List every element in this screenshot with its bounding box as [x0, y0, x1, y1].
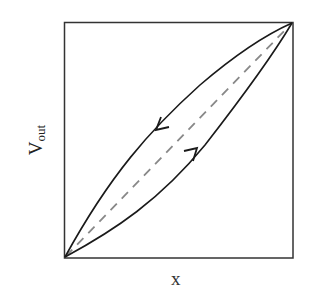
reference-diagonal — [66, 26, 289, 256]
y-axis-label: Vout — [22, 118, 52, 168]
x-axis-label: x — [171, 268, 181, 290]
arrow-up-right-icon — [184, 148, 197, 161]
y-label-subscript: out — [33, 125, 48, 142]
y-label-main: V — [25, 141, 46, 155]
arrow-down-left-icon — [156, 117, 169, 130]
